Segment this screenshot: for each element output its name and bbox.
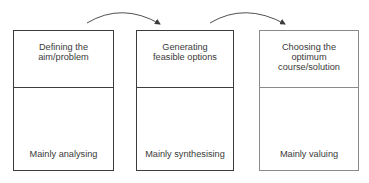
stage-title: Choosing the optimum course/solution: [260, 42, 358, 72]
stage-mode: Mainly analysing: [14, 149, 113, 159]
stage-divider: [14, 87, 113, 88]
stage-divider: [260, 87, 358, 88]
stage-mode: Mainly synthesising: [137, 149, 233, 159]
stage-divider: [137, 87, 233, 88]
stage-title: Defining the aim/problem: [14, 42, 113, 62]
process-diagram: Defining the aim/problem Mainly analysin…: [0, 0, 369, 183]
stage-box-generate-options: Generating feasible options Mainly synth…: [136, 30, 234, 171]
stage-title: Generating feasible options: [137, 42, 233, 62]
stage-mode: Mainly valuing: [260, 149, 358, 159]
curved-arrow-icon: [210, 13, 285, 24]
curved-arrow-icon: [87, 13, 160, 24]
stage-box-define-aim: Defining the aim/problem Mainly analysin…: [13, 30, 114, 171]
stage-box-choose-optimum: Choosing the optimum course/solution Mai…: [259, 30, 359, 171]
